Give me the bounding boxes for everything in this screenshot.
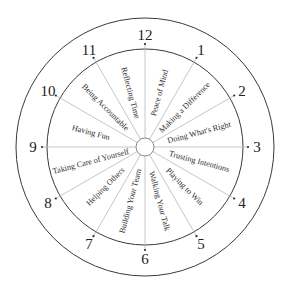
hour-marker-dot [247,146,249,148]
hour-marker-dot [233,94,235,96]
hour-11: 11 [82,42,96,58]
values-clock-diagram: 12 1 2 3 4 5 6 7 8 9 10 11 Peace of Mind… [0,0,288,282]
hour-2: 2 [238,83,246,99]
segment-label-building-your-team: Building Your Team [118,167,144,234]
hour-marker-dot [233,197,235,199]
segment-label-being-accountable: Being Accountable [80,82,131,133]
hour-5: 5 [197,236,205,252]
hour-8: 8 [44,195,52,211]
hour-marker-dot [55,197,57,199]
segment-label-walking-your-talk: Walking Your Talk [147,170,172,233]
hour-marker-dot [41,146,43,148]
hour-3: 3 [253,139,261,155]
segment-label-playing-to-win: Playing to Win [164,166,205,207]
hour-4: 4 [238,195,246,211]
segment-label-helping-others: Helping Others [84,166,126,208]
hour-1: 1 [197,42,205,58]
segment-label-having-fun: Having Fun [71,123,111,142]
hour-12: 12 [138,27,153,43]
hour-9: 9 [29,139,37,155]
hour-10: 10 [41,83,56,99]
hour-7: 7 [85,236,93,252]
hour-marker-dot [144,43,146,45]
segment-label-doing-whats-right: Doing What's Right [167,120,233,146]
segment-label-reflecting-time: Reflecting Time [119,66,142,120]
segment-label-trusting-intentions: Trusting Intentions [168,149,230,174]
center-hub [136,138,154,156]
hour-6: 6 [141,251,149,267]
